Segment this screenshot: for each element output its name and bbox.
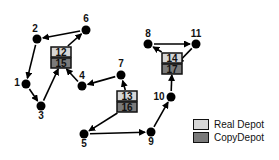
node-label: 2 bbox=[32, 23, 38, 34]
route-edge-6-2 bbox=[43, 31, 80, 38]
real-depot-label: 14 bbox=[166, 53, 178, 64]
real-depot-swatch bbox=[193, 119, 209, 130]
real-depot-label: 12 bbox=[55, 47, 67, 58]
depots: 121513161417 bbox=[51, 47, 182, 113]
vehicle-routing-diagram: 121513161417 1234567891011 Real Depot Co… bbox=[0, 0, 279, 160]
node-label: 10 bbox=[153, 91, 165, 102]
legend-label: Real Depot bbox=[214, 119, 264, 130]
route-edge-3-15 bbox=[44, 69, 59, 101]
copy-depot-label: 15 bbox=[55, 58, 67, 69]
customer-node-8 bbox=[144, 40, 153, 49]
legend-item-real-depot: Real Depot bbox=[193, 118, 264, 131]
customer-node-11 bbox=[192, 40, 201, 49]
node-label: 6 bbox=[83, 13, 89, 24]
route-edge-5-9 bbox=[90, 132, 145, 134]
route-edge-13-7 bbox=[123, 81, 126, 90]
route-edge-9-10 bbox=[154, 102, 168, 127]
route-edge-16-5 bbox=[89, 113, 117, 131]
real-depot-label: 13 bbox=[121, 91, 133, 102]
customer-node-6 bbox=[82, 26, 91, 35]
copy-depot-label: 17 bbox=[166, 64, 178, 75]
route-edge-2-1 bbox=[27, 45, 35, 78]
customer-node-4 bbox=[78, 82, 87, 91]
customer-node-1 bbox=[22, 80, 31, 89]
route-edge-12-6 bbox=[68, 34, 82, 46]
route-edge-1-3 bbox=[29, 89, 37, 101]
node-label: 5 bbox=[81, 138, 87, 149]
node-label: 4 bbox=[79, 70, 85, 81]
legend-item-copy-depot: CopyDepot bbox=[193, 131, 264, 144]
node-label: 9 bbox=[148, 136, 154, 147]
route-edge-14-8 bbox=[153, 47, 162, 52]
customer-node-2 bbox=[33, 35, 42, 44]
legend-label: CopyDepot bbox=[214, 132, 264, 143]
node-label: 8 bbox=[145, 28, 151, 39]
route-edge-7-4 bbox=[88, 77, 115, 85]
legend: Real Depot CopyDepot bbox=[193, 118, 264, 144]
customer-nodes: 1234567891011 bbox=[14, 13, 202, 149]
route-edge-4-15 bbox=[66, 69, 77, 82]
node-label: 11 bbox=[191, 28, 202, 39]
customer-node-7 bbox=[117, 71, 126, 80]
node-label: 7 bbox=[118, 58, 124, 69]
customer-node-10 bbox=[167, 93, 176, 102]
node-label: 3 bbox=[38, 110, 44, 121]
node-label: 1 bbox=[14, 77, 20, 88]
copy-depot-label: 16 bbox=[121, 102, 133, 113]
route-edge-10-17 bbox=[171, 75, 172, 91]
copy-depot-swatch bbox=[193, 132, 209, 143]
